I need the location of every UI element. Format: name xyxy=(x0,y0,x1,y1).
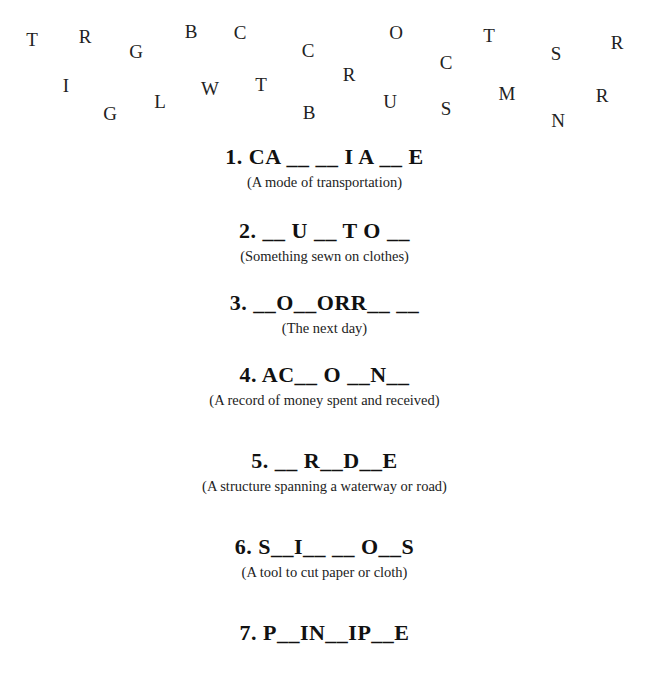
bank-letter: G xyxy=(129,42,143,61)
puzzle-word: 3. __O__ORR__ __ xyxy=(0,290,649,316)
puzzle-word: 6. S__I__ __ O__S xyxy=(0,534,649,560)
puzzle-hint: (Something sewn on clothes) xyxy=(0,247,649,265)
puzzle-item-4: 4. AC__ O __N__ (A record of money spent… xyxy=(0,362,649,409)
puzzle-word: 2. __ U __ T O __ xyxy=(0,218,649,244)
puzzle-item-1: 1. CA __ __ I A __ E (A mode of transpor… xyxy=(0,144,649,191)
puzzle-hint: (A record of money spent and received) xyxy=(0,391,649,409)
puzzle-hint: (A structure spanning a waterway or road… xyxy=(0,477,649,495)
bank-letter: R xyxy=(596,86,609,105)
puzzle-item-2: 2. __ U __ T O __ (Something sewn on clo… xyxy=(0,218,649,265)
bank-letter: C xyxy=(234,23,247,42)
puzzle-hint: (A mode of transportation) xyxy=(0,173,649,191)
bank-letter: O xyxy=(389,23,403,42)
puzzle-hint: (A tool to cut paper or cloth) xyxy=(0,563,649,581)
bank-letter: T xyxy=(255,75,267,94)
puzzle-word: 1. CA __ __ I A __ E xyxy=(0,144,649,170)
bank-letter: C xyxy=(440,53,453,72)
bank-letter: U xyxy=(383,92,397,111)
bank-letter: S xyxy=(551,44,562,63)
puzzle-word: 4. AC__ O __N__ xyxy=(0,362,649,388)
bank-letter: B xyxy=(303,103,316,122)
bank-letter: I xyxy=(63,76,69,95)
puzzle-word: 7. P__IN__IP__E xyxy=(0,620,649,646)
bank-letter: R xyxy=(79,27,92,46)
bank-letter: L xyxy=(154,92,166,111)
bank-letter: M xyxy=(499,84,516,103)
bank-letter: B xyxy=(185,22,198,41)
bank-letter: C xyxy=(302,41,315,60)
bank-letter: R xyxy=(343,65,356,84)
bank-letter: T xyxy=(483,26,495,45)
bank-letter: N xyxy=(551,111,565,130)
puzzle-item-3: 3. __O__ORR__ __ (The next day) xyxy=(0,290,649,337)
bank-letter: R xyxy=(611,33,624,52)
puzzle-word: 5. __ R__D__E xyxy=(0,448,649,474)
bank-letter: T xyxy=(26,30,38,49)
bank-letter: W xyxy=(201,79,219,98)
puzzle-hint: (The next day) xyxy=(0,319,649,337)
puzzle-item-6: 6. S__I__ __ O__S (A tool to cut paper o… xyxy=(0,534,649,581)
bank-letter: S xyxy=(441,99,452,118)
puzzle-item-5: 5. __ R__D__E (A structure spanning a wa… xyxy=(0,448,649,495)
bank-letter: G xyxy=(103,104,117,123)
puzzle-item-7: 7. P__IN__IP__E xyxy=(0,620,649,646)
letter-bank: TRGBCCOTSRIGLWTBRCUSMRN xyxy=(0,0,649,140)
